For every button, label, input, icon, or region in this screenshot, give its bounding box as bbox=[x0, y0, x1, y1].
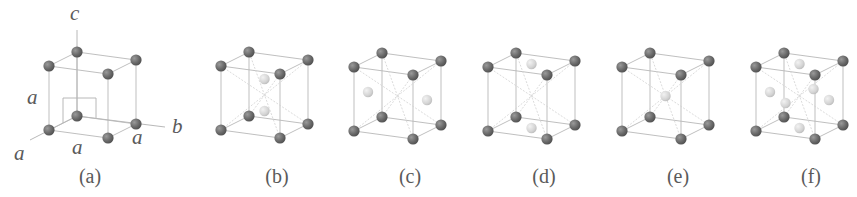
corner-atom bbox=[407, 69, 418, 80]
cell-edge bbox=[382, 117, 441, 125]
cell-edge bbox=[221, 66, 280, 74]
axes-panel-a: c b a a a a bbox=[14, 1, 183, 165]
corner-atom bbox=[376, 111, 387, 122]
panel-label-e: (e) bbox=[667, 165, 689, 188]
corner-atom bbox=[644, 111, 655, 122]
corner-atom bbox=[302, 54, 313, 65]
unit-cell-e bbox=[616, 47, 714, 144]
corner-atom bbox=[43, 60, 54, 71]
cell-edge bbox=[354, 67, 413, 75]
cell-edge bbox=[488, 131, 547, 139]
corner-atom bbox=[348, 61, 359, 72]
decorating-atom bbox=[526, 59, 536, 69]
corner-atom bbox=[407, 133, 418, 144]
corner-atom bbox=[510, 47, 521, 58]
panel-labels: (a) (b) (c) (d) (e) (f) bbox=[79, 165, 821, 188]
cell-edge bbox=[77, 52, 136, 60]
cell-edge bbox=[354, 131, 413, 139]
unit-cell-d bbox=[482, 47, 580, 144]
decorating-atom bbox=[794, 59, 804, 69]
cell-edge bbox=[516, 117, 575, 125]
corner-atom bbox=[274, 132, 285, 143]
corner-atom bbox=[569, 55, 580, 66]
corner-atom bbox=[43, 124, 54, 135]
corner-atom bbox=[102, 132, 113, 143]
cell-edge bbox=[650, 53, 709, 61]
decorating-atom bbox=[765, 87, 775, 97]
corner-atom bbox=[616, 125, 627, 136]
decorating-atom bbox=[794, 123, 804, 133]
corner-atom bbox=[703, 119, 714, 130]
cell-edge bbox=[249, 116, 308, 124]
decorating-atom bbox=[824, 95, 834, 105]
b-axis-label: b bbox=[172, 114, 183, 138]
cell-edge bbox=[784, 117, 843, 125]
cell-edge bbox=[221, 130, 280, 138]
corner-atom bbox=[71, 46, 82, 57]
corner-atom bbox=[778, 47, 789, 58]
cell-edge bbox=[756, 67, 815, 75]
guide-line bbox=[516, 75, 547, 117]
decorating-atom bbox=[526, 123, 536, 133]
corner-atom bbox=[675, 133, 686, 144]
cell-edge bbox=[488, 67, 547, 75]
unit-cell-a bbox=[43, 46, 141, 143]
corner-atom bbox=[778, 111, 789, 122]
unit-cell-b bbox=[215, 46, 313, 143]
corner-atom bbox=[703, 55, 714, 66]
panel-label-c: (c) bbox=[399, 165, 421, 188]
corner-atom bbox=[243, 110, 254, 121]
corner-atom bbox=[274, 68, 285, 79]
unit-cell-f bbox=[750, 47, 848, 144]
corner-atom bbox=[302, 118, 313, 129]
edge-length-label-vertical: a bbox=[27, 85, 38, 109]
corner-atom bbox=[809, 133, 820, 144]
cell-edge bbox=[622, 67, 681, 75]
cell-edge bbox=[382, 53, 441, 61]
panel-label-b: (b) bbox=[265, 165, 288, 188]
corner-atom bbox=[71, 110, 82, 121]
decorating-atom bbox=[259, 74, 269, 84]
c-axis-label: c bbox=[70, 1, 80, 25]
decorating-atom bbox=[363, 87, 373, 97]
corner-atom bbox=[750, 61, 761, 72]
unit-cell-c bbox=[348, 47, 446, 144]
guide-line bbox=[382, 75, 413, 117]
corner-atom bbox=[435, 55, 446, 66]
decorating-atom bbox=[422, 95, 432, 105]
edge-length-label-front: a bbox=[72, 135, 83, 159]
a-axis-label: a bbox=[14, 141, 25, 165]
decorating-atom bbox=[660, 91, 670, 101]
corner-atom bbox=[541, 133, 552, 144]
corner-atom bbox=[435, 119, 446, 130]
corner-atom bbox=[510, 111, 521, 122]
corner-atom bbox=[750, 125, 761, 136]
panel-label-a: (a) bbox=[79, 165, 101, 188]
corner-atom bbox=[215, 60, 226, 71]
corner-atom bbox=[130, 118, 141, 129]
corner-atom bbox=[243, 46, 254, 57]
corner-atom bbox=[837, 55, 848, 66]
corner-atom bbox=[348, 125, 359, 136]
corner-atom bbox=[644, 47, 655, 58]
corner-atom bbox=[675, 69, 686, 80]
corner-atom bbox=[376, 47, 387, 58]
corner-atom bbox=[482, 125, 493, 136]
panel-label-d: (d) bbox=[532, 165, 555, 188]
corner-atom bbox=[569, 119, 580, 130]
unit-cells bbox=[43, 46, 848, 144]
cell-edge bbox=[77, 116, 136, 124]
corner-atom bbox=[541, 69, 552, 80]
corner-atom bbox=[837, 119, 848, 130]
cell-edge bbox=[650, 117, 709, 125]
decorating-atom bbox=[780, 98, 790, 108]
panel-label-f: (f) bbox=[801, 165, 821, 188]
corner-atom bbox=[102, 68, 113, 79]
corner-atom bbox=[130, 54, 141, 65]
guide-line bbox=[784, 75, 815, 117]
corner-atom bbox=[215, 124, 226, 135]
corner-atom bbox=[809, 69, 820, 80]
cell-edge bbox=[622, 131, 681, 139]
cell-edge bbox=[49, 66, 108, 74]
cell-edge bbox=[249, 52, 308, 60]
